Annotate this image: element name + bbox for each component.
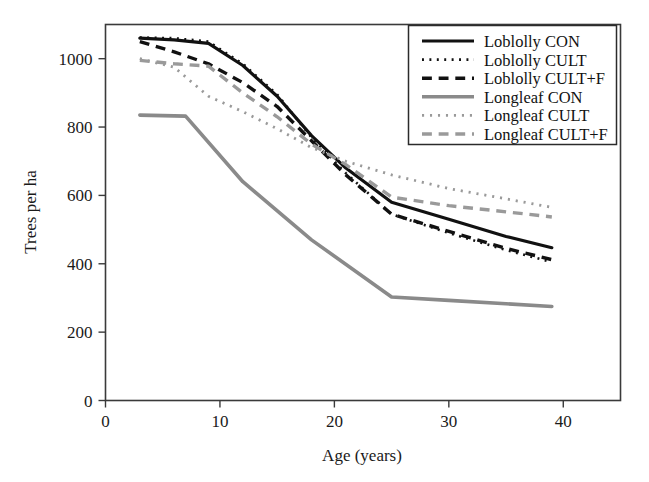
legend-label: Loblolly CULT+F <box>484 69 605 88</box>
legend-label: Loblolly CON <box>484 32 580 51</box>
x-tick-label: 10 <box>211 412 228 431</box>
y-tick-label: 800 <box>67 118 93 137</box>
x-tick-label: 40 <box>555 412 572 431</box>
y-tick-label: 0 <box>84 392 93 411</box>
y-tick-label: 400 <box>67 255 93 274</box>
y-tick-label: 1000 <box>59 50 93 69</box>
y-axis-ticks <box>99 59 106 401</box>
x-tick-label: 0 <box>101 412 110 431</box>
legend-label: Longleaf CULT+F <box>484 125 608 144</box>
legend-label: Longleaf CULT <box>484 106 589 125</box>
chart-figure: 02004006008001000 010203040 Age (years) … <box>0 0 649 482</box>
x-axis-ticks <box>106 401 564 408</box>
x-axis-tick-labels: 010203040 <box>101 412 572 431</box>
legend-label: Loblolly CULT <box>484 51 587 70</box>
x-tick-label: 30 <box>440 412 457 431</box>
x-tick-label: 20 <box>326 412 343 431</box>
legend-label: Longleaf CON <box>484 88 583 107</box>
y-tick-label: 200 <box>67 323 93 342</box>
y-axis-tick-labels: 02004006008001000 <box>59 50 93 411</box>
x-axis-title: Age (years) <box>322 446 402 465</box>
y-tick-label: 600 <box>67 186 93 205</box>
chart-svg: 02004006008001000 010203040 Age (years) … <box>0 0 649 482</box>
legend: Loblolly CONLoblolly CULTLoblolly CULT+F… <box>409 26 617 145</box>
y-axis-title: Trees per ha <box>21 170 40 254</box>
